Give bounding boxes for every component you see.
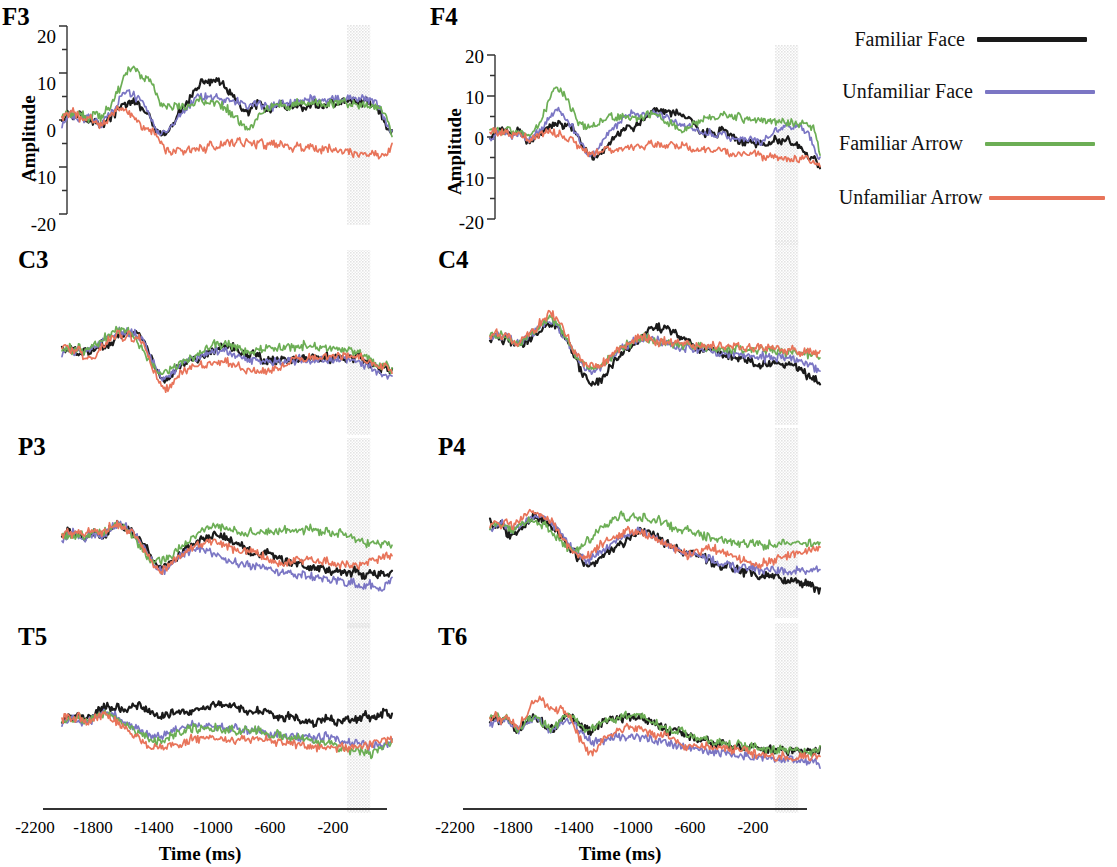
response-window-shading: [775, 623, 798, 813]
ytick-f4-10: 10: [440, 87, 484, 109]
ytick-f3--10: -10: [8, 167, 56, 189]
ytick-f4--20: -20: [436, 212, 484, 234]
legend-swatch-line: [985, 90, 1095, 94]
legend-label: Unfamiliar Face: [805, 80, 973, 103]
xtick-left--200: -200: [303, 818, 363, 838]
x-axis-line-right: [463, 808, 807, 810]
legend-swatch-line: [985, 142, 1095, 146]
waveform-trace: [62, 712, 392, 752]
panel-plot-c4: [490, 240, 820, 425]
legend-swatch-line: [989, 196, 1105, 200]
waveform-trace: [490, 108, 820, 168]
waveform-trace: [62, 106, 392, 159]
panel-label-t6: T6: [438, 624, 467, 649]
waveform-trace: [490, 322, 820, 385]
panel-label-p4: P4: [438, 434, 466, 459]
response-window-shading: [347, 25, 370, 225]
panel-label-t5: T5: [18, 624, 47, 649]
waveform-trace: [62, 66, 392, 136]
panel-label-p3: P3: [18, 434, 46, 459]
response-window-shading: [775, 428, 798, 618]
waveform-trace: [62, 710, 392, 758]
legend-item-unfamiliar-arrow: Unfamiliar Arrow: [805, 186, 1105, 209]
response-window-shading: [347, 250, 370, 435]
xtick-left--600: -600: [240, 818, 300, 838]
xtick-right--200: -200: [723, 818, 783, 838]
erp-figure: Familiar Face Unfamiliar Face Familiar A…: [0, 0, 1117, 867]
panel-label-c4: C4: [438, 247, 469, 272]
xtick-right--1800: -1800: [478, 818, 548, 838]
xtick-left--1000: -1000: [178, 818, 248, 838]
axis-label-time-left: Time (ms): [130, 843, 270, 865]
ytick-f3-0: 0: [12, 120, 56, 142]
legend-label: Familiar Arrow: [805, 132, 963, 155]
panel-plot-p4: [490, 428, 820, 618]
panel-plot-t5: [62, 618, 392, 808]
response-window-shading: [775, 240, 798, 425]
xtick-left--1800: -1800: [58, 818, 128, 838]
x-axis-line-left: [43, 808, 387, 810]
legend-item-familiar-face: Familiar Face: [805, 28, 1095, 51]
xtick-right--1000: -1000: [598, 818, 668, 838]
ytick-f4-0: 0: [440, 128, 484, 150]
axis-label-time-right: Time (ms): [550, 843, 690, 865]
panel-plot-p3: [62, 428, 392, 618]
waveform-trace: [490, 128, 820, 167]
ytick-f3--20: -20: [8, 214, 56, 236]
legend-label: Familiar Face: [805, 28, 965, 51]
panel-plot-c3: [62, 240, 392, 425]
legend-item-unfamiliar-face: Unfamiliar Face: [805, 80, 1095, 103]
legend-item-familiar-arrow: Familiar Arrow: [805, 132, 1095, 155]
panel-plot-f3: [62, 25, 392, 255]
xtick-right--600: -600: [660, 818, 720, 838]
legend: Familiar Face Unfamiliar Face Familiar A…: [805, 14, 1105, 204]
panel-plot-t6: [490, 618, 820, 808]
ytick-f4--10: -10: [436, 169, 484, 191]
panel-label-f4: F4: [430, 4, 458, 29]
legend-swatch-line: [977, 37, 1087, 42]
panel-label-c3: C3: [18, 247, 49, 272]
ytick-f3-20: 20: [12, 26, 56, 48]
ytick-f4-20: 20: [440, 46, 484, 68]
ytick-f3-10: 10: [12, 73, 56, 95]
panel-plot-f4: [490, 45, 820, 265]
waveform-trace: [62, 330, 392, 392]
response-window-shading: [347, 438, 370, 628]
legend-label: Unfamiliar Arrow: [805, 186, 983, 209]
